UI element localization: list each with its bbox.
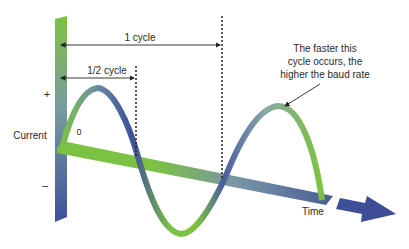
annotation-line-2: cycle occurs, the	[288, 56, 363, 67]
time-axis-arrow	[336, 196, 396, 222]
negative-label: –	[42, 179, 49, 191]
baud-rate-diagram: 1 cycle 1/2 cycle + – 0 Current Time The…	[0, 0, 409, 249]
zero-label: 0	[76, 127, 81, 137]
time-axis-label: Time	[302, 206, 324, 217]
annotation-line-1: The faster this	[293, 43, 356, 54]
half-cycle-label: 1/2 cycle	[87, 65, 127, 76]
current-axis-bar	[55, 16, 67, 222]
time-axis-band	[57, 142, 333, 205]
current-axis-label: Current	[13, 130, 47, 141]
annotation-pointer-arrow	[285, 84, 320, 106]
positive-label: +	[44, 88, 50, 100]
annotation-line-3: higher the baud rate	[280, 69, 370, 80]
one-cycle-label: 1 cycle	[124, 32, 156, 43]
